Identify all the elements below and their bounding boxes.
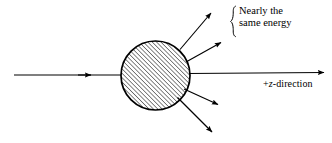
scattering-diagram-figure: Nearly the same energy +z-direction	[0, 0, 332, 143]
z-direction-suffix: -direction	[273, 78, 313, 89]
nearly-same-energy-line-1: Nearly the	[239, 5, 292, 17]
scattered-ray-down-outer	[178, 98, 213, 133]
nearly-same-energy-line-2: same energy	[239, 17, 292, 29]
z-direction-label: +z-direction	[263, 78, 313, 90]
scattered-ray-down-inner	[184, 89, 218, 105]
scattered-ray-up-outer	[180, 13, 211, 50]
scattered-ray-up-inner	[186, 43, 221, 63]
curly-brace	[231, 6, 236, 36]
forward-axis-shaft	[188, 73, 324, 74]
nearly-same-energy-label: Nearly the same energy	[239, 5, 292, 30]
forward-axis-arrow	[188, 73, 324, 74]
